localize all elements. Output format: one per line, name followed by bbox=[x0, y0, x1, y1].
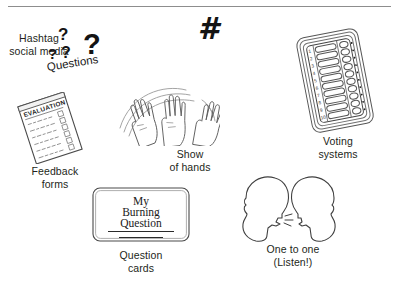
feedback-forms-caption: Feedback forms bbox=[8, 165, 102, 190]
one-to-one-figure bbox=[232, 172, 348, 244]
two-head-profiles-icon bbox=[232, 172, 348, 244]
svg-text:2: 2 bbox=[309, 56, 313, 61]
show-of-hands-figure bbox=[112, 84, 220, 146]
voting-systems-caption: Voting systems bbox=[286, 135, 390, 160]
svg-text:4: 4 bbox=[312, 71, 316, 76]
svg-text:6: 6 bbox=[315, 85, 319, 90]
svg-text:5: 5 bbox=[314, 78, 318, 83]
svg-text:1: 1 bbox=[308, 49, 312, 54]
one-to-one-caption: One to one (Listen!) bbox=[238, 243, 348, 268]
question-cards-caption: Question cards bbox=[92, 249, 190, 274]
hashtag-caption: Hashtag social media bbox=[0, 32, 78, 57]
svg-text:3: 3 bbox=[311, 63, 315, 68]
svg-text:10: 10 bbox=[320, 114, 326, 120]
svg-text:7: 7 bbox=[317, 93, 321, 98]
illustration-page: ? ? ? ? Questions # Hashtag social media bbox=[0, 0, 398, 287]
card-write-line-1 bbox=[108, 231, 174, 232]
svg-text:8: 8 bbox=[318, 100, 322, 105]
svg-text:9: 9 bbox=[320, 107, 324, 112]
top-horizontal-rule bbox=[8, 6, 391, 7]
ballot-card-icon: 1 2 3 4 5 6 7 8 9 10 bbox=[292, 26, 384, 134]
hashtag-icon: # bbox=[198, 14, 219, 44]
voting-systems-figure: 1 2 3 4 5 6 7 8 9 10 bbox=[292, 26, 384, 134]
feedback-forms-figure: EVALUATION bbox=[12, 92, 88, 164]
card-text-line-3: Question bbox=[92, 217, 190, 229]
card-write-line-2 bbox=[119, 237, 163, 238]
hashtag-figure: # bbox=[172, 18, 250, 74]
evaluation-form-icon: EVALUATION bbox=[12, 92, 88, 164]
question-card-figure: My Burning Question bbox=[92, 187, 190, 242]
raised-hands-icon bbox=[112, 84, 220, 146]
show-of-hands-caption: Show of hands bbox=[144, 148, 236, 173]
